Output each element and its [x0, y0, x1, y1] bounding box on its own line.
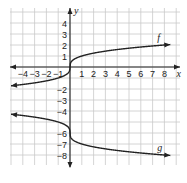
- x-tick-label: 5: [126, 69, 131, 79]
- curve-label-g: g: [157, 142, 162, 153]
- x-tick-label: 1: [79, 69, 84, 79]
- y-tick-label: 2: [62, 41, 67, 51]
- x-tick-label: 4: [115, 69, 120, 79]
- y-tick-label: 1: [62, 52, 67, 62]
- y-tick-label: −7: [57, 140, 67, 150]
- x-tick-label: 3: [103, 69, 108, 79]
- y-tick-label: −8: [57, 151, 67, 161]
- y-tick-label: 3: [62, 30, 67, 40]
- curve-arrow-icon: [164, 152, 170, 157]
- x-tick-label: 6: [138, 69, 143, 79]
- y-tick-label: −4: [57, 107, 67, 117]
- y-axis-arrow-up-icon: [68, 8, 73, 14]
- grid-lines: [10, 8, 180, 165]
- curve-label-f: f: [157, 32, 161, 43]
- x-axis-label: x: [176, 68, 182, 79]
- x-tick-label: 7: [150, 69, 155, 79]
- y-axis-label: y: [73, 5, 79, 16]
- tick-labels: −4−3−2−1123456784321−2−3−4−6−7−8: [18, 19, 167, 161]
- function-graph: −4−3−2−1123456784321−2−3−4−6−7−8 xyfg: [0, 0, 187, 183]
- x-tick-label: 2: [91, 69, 96, 79]
- y-tick-label: 4: [62, 19, 67, 29]
- curve-arrow-icon: [164, 42, 170, 47]
- x-tick-label: −2: [41, 69, 51, 79]
- y-axis-arrow-down-icon: [68, 162, 73, 168]
- x-tick-label: −4: [18, 69, 28, 79]
- x-tick-label: −3: [29, 69, 39, 79]
- x-tick-label: 8: [162, 69, 167, 79]
- y-tick-label: −2: [57, 85, 67, 95]
- y-tick-label: −6: [57, 129, 67, 139]
- y-tick-label: −3: [57, 96, 67, 106]
